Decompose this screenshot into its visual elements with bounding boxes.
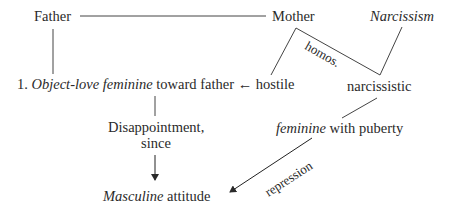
object-love-rest: toward father xyxy=(156,76,234,92)
feminine-rest: with puberty xyxy=(330,120,404,136)
masculine-italic: Masculine xyxy=(103,188,163,204)
node-narcissism: Narcissism xyxy=(370,8,434,24)
psychoanalytic-diagram: Father Mother Narcissism 1. Object-love … xyxy=(0,0,453,211)
node-masculine-attitude: Masculine attitude xyxy=(103,188,211,204)
node-object-love: 1. Object-love feminine toward father ← … xyxy=(17,76,294,92)
node-mother: Mother xyxy=(272,8,315,24)
masculine-rest: attitude xyxy=(167,188,211,204)
disappointment-line2: since xyxy=(108,135,204,151)
node-father: Father xyxy=(34,8,71,24)
disappointment-line1: Disappointment, xyxy=(108,119,204,135)
feminine-italic: feminine xyxy=(276,120,326,136)
connector-lines xyxy=(0,0,453,211)
left-arrow-icon: ← xyxy=(238,76,253,92)
node-feminine-puberty: feminine with puberty xyxy=(276,120,403,136)
object-love-number: 1. xyxy=(17,76,28,92)
node-narcissistic: narcissistic xyxy=(347,78,411,94)
object-love-italic: Object-love feminine xyxy=(32,76,153,92)
node-disappointment: Disappointment, since xyxy=(108,119,204,151)
node-hostile: hostile xyxy=(256,76,295,92)
